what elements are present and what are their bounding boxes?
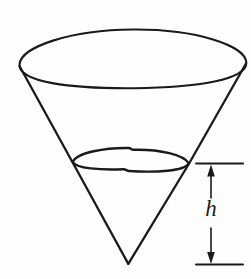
cone-diagram-canvas	[0, 0, 251, 279]
cone-opening-ellipse	[19, 29, 246, 88]
cone-left-side	[20, 66, 129, 264]
liquid-surface-ellipse	[73, 148, 189, 172]
dimension-arrowhead-down	[207, 252, 215, 264]
height-label-h: h	[198, 196, 224, 222]
cone-diagram-figure: h	[0, 0, 251, 279]
dimension-arrowhead-up	[207, 165, 215, 177]
